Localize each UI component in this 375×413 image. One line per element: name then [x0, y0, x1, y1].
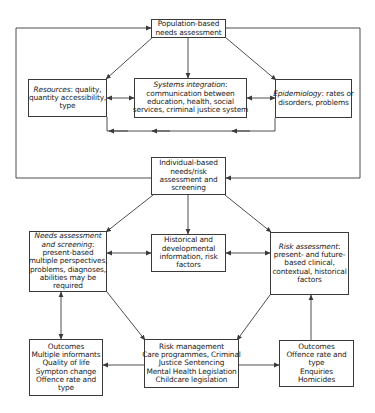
needs-assessment-flow-diagram: Population-based needs assessment Resour…	[0, 0, 375, 413]
box-text-line: services, criminal justice system	[133, 106, 248, 114]
risk-assessment-box: Risk assessment: present- and future- ba…	[270, 232, 349, 295]
box-text-line: needs assessment	[155, 29, 221, 37]
epidemiology-box: Epidemiology: rates or disorders, proble…	[275, 79, 352, 118]
outcomes-right-box: Outcomes Offence rate and type Enquiries…	[279, 340, 354, 387]
box-text-line: Childcare legislation	[142, 376, 240, 384]
population-needs-assessment-box: Population-based needs assessment	[151, 19, 226, 38]
box-text-line: Homicides	[286, 376, 346, 384]
box-text-line: : rates or	[322, 89, 354, 98]
box-text-line: required	[29, 282, 108, 290]
box-text-line: factors	[159, 261, 217, 269]
box-label-italic: Epidemiology	[273, 89, 321, 98]
risk-management-box: Risk management Care programmes, Crimina…	[144, 339, 239, 388]
outcomes-left-box: Outcomes Multiple informants Quality of …	[29, 339, 103, 396]
box-text-line: type	[29, 102, 106, 110]
historical-developmental-box: Historical and developmental information…	[151, 234, 226, 272]
box-text-line: screening	[159, 184, 218, 192]
individual-assessment-box: Individual-based needs/risk assessment a…	[151, 157, 226, 195]
box-text-line: type	[32, 384, 101, 392]
resources-box: Resources: quality, quantity accessibili…	[28, 79, 107, 117]
systems-integration-box: Systems integration: communication betwe…	[134, 78, 247, 118]
needs-assessment-screening-box: Needs assessment and screening: present-…	[29, 231, 107, 292]
box-text-line: disorders, problems	[273, 99, 353, 107]
box-text-line: factors	[272, 276, 346, 284]
